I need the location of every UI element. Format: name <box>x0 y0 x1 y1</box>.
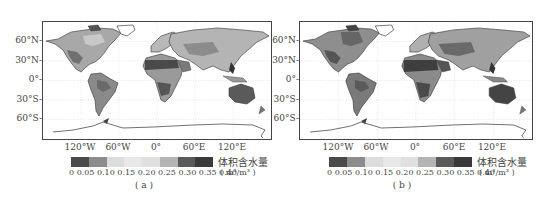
y-tick-0: 0°- <box>6 74 42 84</box>
colorbar-a <box>71 157 213 167</box>
colorbar-unit-b: ( m³/m³ ) <box>479 168 515 178</box>
panel-b: 60°N- 30°N- 0°- 30°S- 60°S- <box>275 0 551 198</box>
x-tick-120w: 120°W <box>60 142 100 152</box>
x-tick-120e: 120°E <box>212 142 252 152</box>
colorbar-unit-a: ( m³/m³ ) <box>220 168 256 178</box>
x-tick-120e: 120°E <box>472 142 512 152</box>
y-tick-30n: 30°N- <box>6 55 42 65</box>
x-tick-60w: 60°W <box>356 142 396 152</box>
world-map-b <box>300 22 532 139</box>
colorbar-title-a: 体积含水量 <box>218 157 268 168</box>
x-tick-0: 0° <box>395 142 435 152</box>
y-tick-60s: 60°S- <box>6 113 42 123</box>
x-tick-120w: 120°W <box>318 142 358 152</box>
y-tick-30s: 30°S- <box>6 94 42 104</box>
y-tick-60s: 60°S- <box>263 113 299 123</box>
caption-a: ( a ) <box>129 180 159 190</box>
caption-b: ( b ) <box>387 180 417 190</box>
y-tick-30n: 30°N- <box>263 55 299 65</box>
y-tick-0: 0°- <box>263 74 299 84</box>
map-a <box>42 21 272 140</box>
colorbar-ticks-a: 0 0.05 0.10 0.15 0.20 0.25 0.30 0.35 0.4… <box>69 168 237 178</box>
colorbar-ticks-b: 0 0.05 0.10 0.15 0.20 0.25 0.30 0.35 0.4… <box>327 168 495 178</box>
panel-a: 60°N- 30°N- 0°- 30°S- 60°S- <box>0 0 275 198</box>
x-tick-60e: 60°E <box>174 142 214 152</box>
world-map-a <box>43 22 271 139</box>
y-tick-60n: 60°N- <box>263 35 299 45</box>
x-tick-0: 0° <box>136 142 176 152</box>
map-b <box>299 21 533 140</box>
x-tick-60e: 60°E <box>434 142 474 152</box>
colorbar-title-b: 体积含水量 <box>477 157 527 168</box>
y-tick-60n: 60°N- <box>6 35 42 45</box>
x-tick-60w: 60°W <box>98 142 138 152</box>
y-tick-30s: 30°S- <box>263 94 299 104</box>
colorbar-b <box>329 157 472 167</box>
